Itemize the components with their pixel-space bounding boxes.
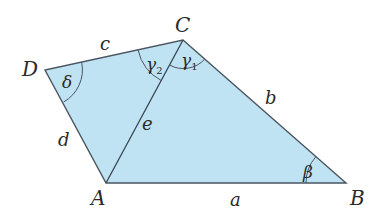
vertex-label-d: D	[21, 57, 38, 81]
side-label-d: d	[58, 129, 70, 150]
vertex-label-c: C	[175, 13, 190, 37]
vertex-label-b: B	[349, 186, 365, 210]
angle-label-delta: δ	[62, 72, 72, 92]
side-label-e: e	[142, 113, 153, 134]
side-label-a: a	[230, 189, 241, 210]
vertex-label-a: A	[89, 186, 105, 210]
side-label-b: b	[265, 87, 277, 108]
side-label-c: c	[100, 33, 110, 54]
angle-label-beta: β	[302, 162, 313, 182]
quadrilateral-diagram: A B C D a b c d e δ γ2 γ1 β	[0, 0, 381, 221]
